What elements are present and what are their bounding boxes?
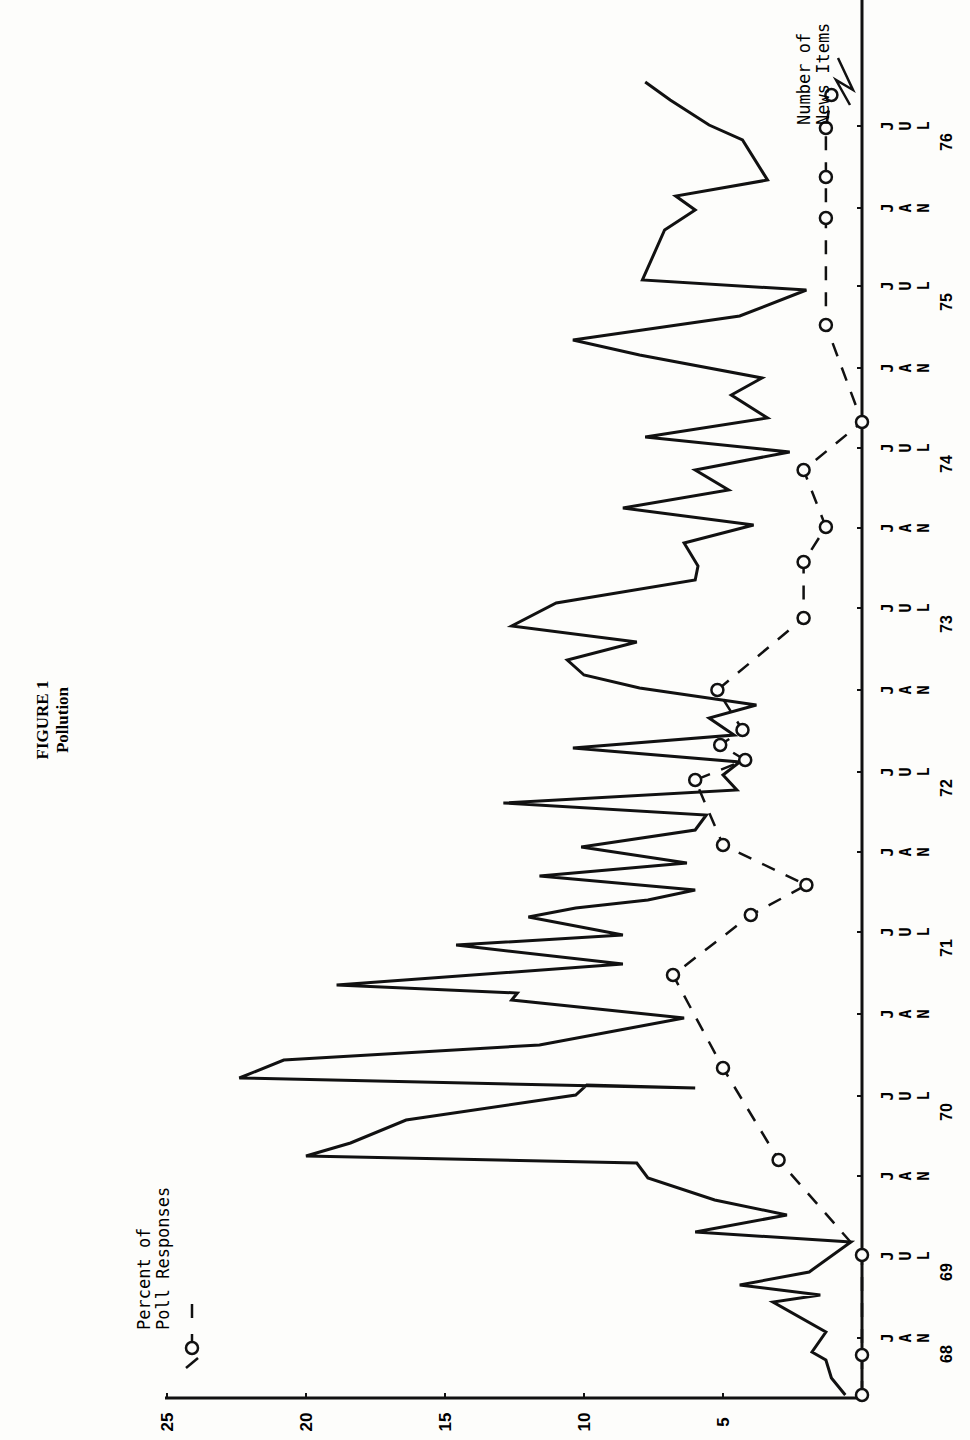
- news-items-line: [239, 82, 851, 1395]
- svg-text:U: U: [897, 603, 915, 612]
- year-label: 70: [938, 1103, 955, 1121]
- svg-text:J: J: [879, 281, 897, 290]
- poll-marker: [745, 909, 757, 921]
- poll-marker: [737, 724, 749, 736]
- svg-text:J: J: [879, 203, 897, 212]
- svg-text:L: L: [915, 767, 933, 776]
- svg-text:J: J: [879, 847, 897, 856]
- figure-subtitle-text: Pollution: [53, 686, 72, 753]
- time-label-jan: JAN: [879, 523, 933, 532]
- poll-marker: [667, 969, 679, 981]
- svg-text:J: J: [879, 363, 897, 372]
- value-tick-label: 15: [436, 1413, 455, 1432]
- svg-text:U: U: [897, 121, 915, 130]
- value-tick-label: 20: [297, 1413, 316, 1432]
- poll-responses-line: [673, 95, 862, 1395]
- figure-title: FIGURE 1 Pollution: [33, 681, 72, 760]
- time-label-jul-69: JUL69: [879, 1251, 955, 1280]
- time-label-jul-76: JUL76: [879, 121, 955, 150]
- svg-text:N: N: [915, 363, 933, 372]
- figure-title-text: FIGURE 1: [33, 681, 52, 760]
- poll-marker: [800, 879, 812, 891]
- poll-marker: [689, 774, 701, 786]
- svg-text:A: A: [897, 203, 915, 212]
- poll-marker: [773, 1154, 785, 1166]
- svg-text:J: J: [879, 1333, 897, 1342]
- poll-marker: [717, 1062, 729, 1074]
- svg-text:L: L: [915, 121, 933, 130]
- svg-text:J: J: [879, 443, 897, 452]
- poll-marker: [820, 171, 832, 183]
- time-label-jan: JAN: [879, 363, 933, 372]
- poll-marker: [856, 1249, 868, 1261]
- svg-text:A: A: [897, 685, 915, 694]
- svg-text:N: N: [915, 1333, 933, 1342]
- time-label-jul-72: JUL72: [879, 767, 955, 796]
- value-tick-label: 25: [158, 1413, 177, 1432]
- poll-marker: [739, 754, 751, 766]
- svg-text:J: J: [879, 603, 897, 612]
- svg-text:N: N: [915, 1171, 933, 1180]
- year-label: 74: [938, 455, 955, 473]
- news-legend-line1: Number of: [794, 33, 814, 125]
- svg-text:U: U: [897, 927, 915, 936]
- svg-text:U: U: [897, 767, 915, 776]
- svg-text:N: N: [915, 847, 933, 856]
- time-label-jan-68: JAN68: [879, 1333, 955, 1362]
- year-label: 68: [938, 1345, 955, 1363]
- svg-text:J: J: [879, 523, 897, 532]
- poll-marker: [820, 212, 832, 224]
- value-tick-label: 10: [575, 1413, 594, 1432]
- poll-marker: [798, 612, 810, 624]
- poll-marker: [820, 319, 832, 331]
- poll-marker: [820, 521, 832, 533]
- svg-text:U: U: [897, 1251, 915, 1260]
- year-label: 72: [938, 779, 955, 797]
- poll-marker: [856, 1349, 868, 1361]
- svg-text:A: A: [897, 523, 915, 532]
- year-label: 71: [938, 939, 955, 957]
- poll-marker: [717, 839, 729, 851]
- poll-marker: [714, 739, 726, 751]
- svg-text:L: L: [915, 1251, 933, 1260]
- poll-legend-symbol-icon: [186, 1304, 198, 1368]
- svg-text:J: J: [879, 1251, 897, 1260]
- svg-text:J: J: [879, 121, 897, 130]
- poll-marker: [856, 416, 868, 428]
- poll-marker: [798, 464, 810, 476]
- poll-marker: [798, 556, 810, 568]
- year-label: 76: [938, 133, 955, 151]
- news-legend-line2: News Items: [813, 23, 833, 125]
- time-label-jan: JAN: [879, 847, 933, 856]
- svg-text:J: J: [879, 927, 897, 936]
- time-label-jul-71: JUL71: [879, 927, 955, 956]
- svg-text:J: J: [879, 685, 897, 694]
- svg-text:J: J: [879, 1171, 897, 1180]
- svg-text:J: J: [879, 767, 897, 776]
- time-label-jan: JAN: [879, 685, 933, 694]
- time-label-jul-74: JUL74: [879, 443, 955, 472]
- svg-text:N: N: [915, 523, 933, 532]
- time-label-jan: JAN: [879, 203, 933, 212]
- svg-text:L: L: [915, 443, 933, 452]
- year-label: 69: [938, 1263, 955, 1281]
- svg-text:U: U: [897, 1091, 915, 1100]
- svg-text:A: A: [897, 847, 915, 856]
- svg-text:L: L: [915, 1091, 933, 1100]
- time-label-jul-70: JUL70: [879, 1091, 955, 1120]
- poll-legend-line1: Percent of: [134, 1228, 154, 1330]
- poll-legend-line2: Poll Responses: [153, 1187, 173, 1330]
- svg-text:N: N: [915, 203, 933, 212]
- svg-text:A: A: [897, 1171, 915, 1180]
- poll-responses-markers: [667, 89, 868, 1401]
- time-label-jul-75: JUL75: [879, 281, 955, 310]
- svg-text:L: L: [915, 281, 933, 290]
- svg-text:J: J: [879, 1091, 897, 1100]
- svg-text:J: J: [879, 1009, 897, 1018]
- chart-canvas: 252015105 JAN68JUL69JANJUL70JANJUL71JANJ…: [0, 0, 970, 1440]
- poll-marker: [856, 1389, 868, 1401]
- svg-text:L: L: [915, 927, 933, 936]
- svg-text:A: A: [897, 363, 915, 372]
- poll-marker: [711, 684, 723, 696]
- time-label-jul-73: JUL73: [879, 603, 955, 632]
